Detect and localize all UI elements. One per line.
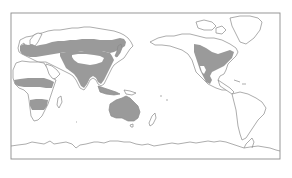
antarctic-peninsula bbox=[244, 138, 254, 148]
canadian-arctic-islands bbox=[196, 20, 216, 30]
new-guinea bbox=[124, 90, 136, 95]
map-canvas bbox=[0, 0, 292, 178]
madagascar bbox=[57, 96, 62, 108]
caribbean-islands bbox=[234, 80, 246, 84]
south-america-landmass bbox=[232, 92, 266, 140]
world-distribution-map bbox=[0, 0, 292, 178]
greenland bbox=[230, 16, 262, 44]
new-zealand bbox=[149, 113, 156, 126]
antarctica-coast bbox=[11, 141, 280, 151]
tasmania bbox=[130, 124, 133, 127]
